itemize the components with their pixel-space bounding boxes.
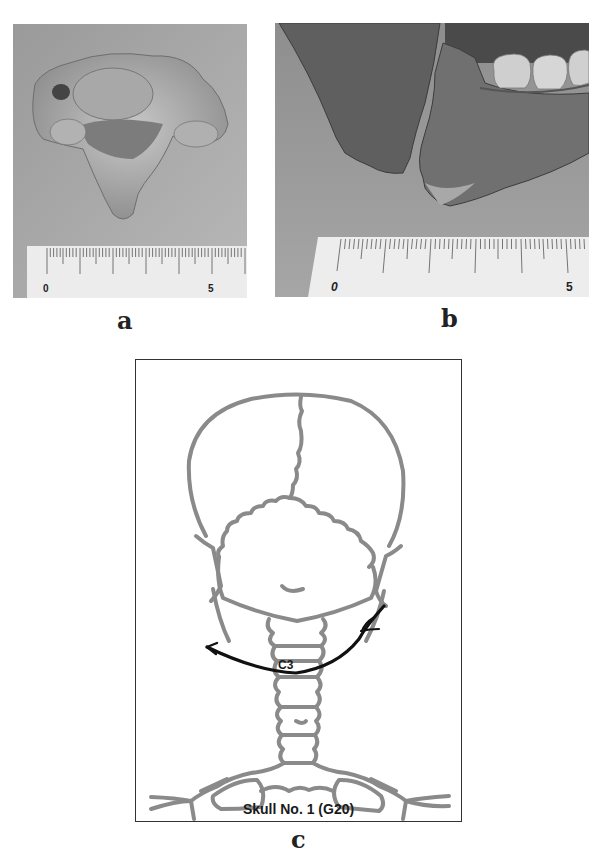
- skull-outline: [151, 394, 449, 819]
- mandible-photo-illustration: 0 5: [275, 23, 589, 297]
- skull-diagram: [136, 360, 463, 823]
- skull-caption: Skull No. 1 (G20): [136, 801, 461, 817]
- photo-vertebra: 0 5: [13, 24, 247, 298]
- ruler-a-start-label: 0: [43, 283, 49, 294]
- ruler-b-start-label: 0: [331, 280, 338, 294]
- vertebra-photo-illustration: 0 5: [13, 24, 247, 298]
- ruler-a-end-label: 5: [208, 283, 214, 294]
- panel-label-b: b: [441, 307, 458, 331]
- panel-label-c: c: [291, 828, 306, 852]
- c3-vertebra-label: C3: [278, 658, 293, 672]
- skull-diagram-frame: C3 Skull No. 1 (G20): [135, 359, 462, 822]
- photo-mandible: 0 5: [275, 23, 589, 297]
- ruler-b-end-label: 5: [566, 280, 573, 294]
- panel-label-a: a: [117, 309, 133, 333]
